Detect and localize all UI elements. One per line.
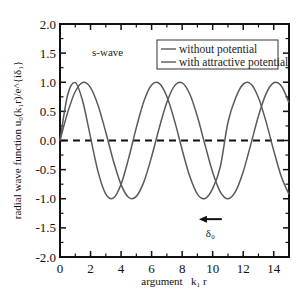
x-tick-label: 0 [57, 261, 64, 276]
legend: without potential with attractive potent… [157, 40, 288, 69]
arrow-head-icon [199, 216, 207, 223]
y-tick-label: -0.5 [35, 162, 56, 177]
y-tick-label: 2.0 [40, 17, 56, 32]
x-tick-label: 14 [267, 261, 281, 276]
x-tick-label: 12 [237, 261, 250, 276]
y-tick-label: -1.0 [35, 191, 56, 206]
y-tick-label: -1.5 [35, 220, 56, 235]
y-tick-label: 1.5 [40, 46, 56, 61]
y-tick-label: 1.0 [40, 75, 56, 90]
phase-shift-label: δ₀ [206, 227, 215, 239]
x-tick-label: 2 [87, 261, 94, 276]
x-tick-label: 6 [148, 261, 155, 276]
legend-label-with-attractive-potential: with attractive potential [179, 56, 288, 69]
x-tick-label: 10 [206, 261, 219, 276]
x-tick-label: 8 [179, 261, 186, 276]
y-tick-label: 0.0 [40, 133, 56, 148]
legend-label-without-potential: without potential [179, 43, 257, 56]
s-wave-label: s-wave [92, 46, 123, 58]
phase-shift-annotation: δ₀ [199, 216, 222, 240]
y-axis-title: radial wave function u₀(k₁r)/e^{iδ₁} [11, 61, 24, 220]
x-tick-label: 4 [118, 261, 125, 276]
y-tick-label: -2.0 [35, 250, 56, 265]
x-axis-title: argument k₁ r [141, 275, 207, 287]
chart: -2.0-1.5-1.0-0.50.00.51.01.52.0 02468101… [0, 0, 304, 308]
y-tick-label: 0.5 [40, 104, 56, 119]
